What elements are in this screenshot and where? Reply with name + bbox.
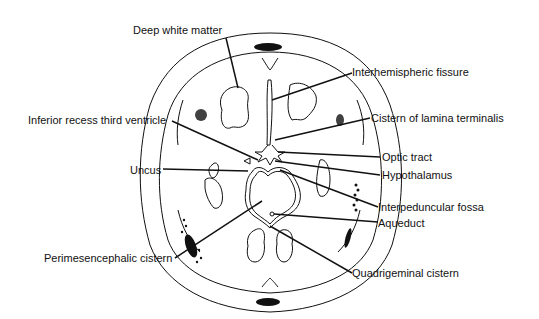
- leader-inferior-recess: [172, 121, 258, 160]
- label-uncus: Uncus: [130, 164, 161, 176]
- brain-diagram: Deep white matter Interhemispheric fissu…: [0, 0, 539, 319]
- label-deep-white-matter: Deep white matter: [133, 24, 222, 36]
- midbrain-outline: [245, 168, 300, 229]
- label-hypothalamus: Hypothalamus: [382, 169, 452, 181]
- label-optic-tract: Optic tract: [382, 151, 432, 163]
- label-inferior-recess-third-ventricle: Inferior recess third ventricle: [28, 114, 166, 126]
- label-interhemispheric-fissure: Interhemispheric fissure: [352, 66, 469, 78]
- label-interpeduncular-fossa: Interpeduncular fossa: [378, 201, 484, 213]
- leader-interhemispheric-fissure: [272, 73, 352, 100]
- label-quadrigeminal-cistern: Quadrigeminal cistern: [352, 267, 459, 279]
- label-perimesencephalic-cistern: Perimesencephalic cistern: [44, 252, 172, 264]
- leader-aqueduct: [274, 214, 378, 222]
- leader-perimesencephalic: [175, 201, 262, 258]
- leader-optic-tract: [278, 152, 380, 157]
- label-aqueduct: Aqueduct: [378, 217, 424, 229]
- leader-uncus: [163, 169, 248, 171]
- leader-cistern-lamina-terminalis: [275, 118, 370, 140]
- label-cistern-of-lamina-terminalis: Cistern of lamina terminalis: [371, 112, 504, 124]
- leader-quadrigeminal: [270, 226, 352, 273]
- leader-deep-white-matter: [226, 38, 238, 88]
